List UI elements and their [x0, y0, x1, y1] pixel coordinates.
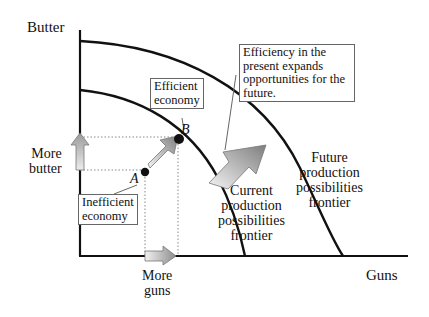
- y-axis-label: Butter: [27, 20, 65, 35]
- arrow-a-to-b-icon: [148, 136, 178, 168]
- x-axis-label: Guns: [366, 268, 398, 283]
- more-guns-arrow-icon: [145, 246, 176, 265]
- inefficient-economy-callout: Inefficient economy: [78, 194, 138, 225]
- more-butter-label: More butter: [29, 146, 62, 176]
- point-b-label: B: [181, 122, 190, 138]
- future-ppf-label: Future production possibilities frontier: [296, 150, 363, 210]
- more-guns-label: More guns: [142, 268, 172, 298]
- efficiency-annotation: Efficiency in the present expands opport…: [239, 44, 355, 102]
- current-ppf-label: Current production possibilities frontie…: [218, 183, 285, 243]
- point-a-label: A: [130, 171, 139, 187]
- more-butter-arrow-icon: [71, 133, 89, 170]
- efficient-economy-callout: Efficient economy: [150, 78, 204, 109]
- point-a: [141, 168, 149, 176]
- ppf-diagram: [0, 0, 429, 317]
